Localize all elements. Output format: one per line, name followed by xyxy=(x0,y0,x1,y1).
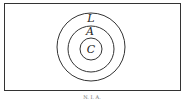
caption: N. I. A. xyxy=(83,94,101,99)
label-L: L xyxy=(86,12,94,25)
label-C: C xyxy=(87,43,96,56)
label-A: A xyxy=(85,25,94,38)
venn-diagram: L A C N. I. A. xyxy=(0,0,184,99)
